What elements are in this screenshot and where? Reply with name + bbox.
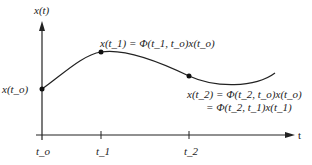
point-x-t1: [99, 50, 104, 55]
tick-label-t0: t_o: [36, 145, 50, 157]
diagram-canvas: [0, 0, 312, 165]
tick-label-t1: t_1: [96, 145, 110, 157]
point-x-t2: [187, 74, 192, 79]
point-label-x-t1: x(t_1) = Φ(t_1, t_o)x(t_o): [100, 37, 215, 49]
y-axis-label: x(t): [34, 4, 49, 16]
point-x-t0: [40, 87, 45, 92]
trajectory-curve: [42, 51, 275, 89]
point-label-x-t2-line2: = Φ(t_2, t_1)x(t_1): [206, 101, 292, 113]
x-axis-arrow-icon: [285, 132, 295, 138]
state-transition-diagram: x(t) t t_o t_1 t_2 x(t_o) x(t_1) = Φ(t_1…: [0, 0, 312, 165]
x-axis-label: t: [298, 129, 301, 141]
point-label-x-t0: x(t_o): [2, 83, 28, 95]
tick-label-t2: t_2: [184, 145, 198, 157]
y-axis-arrow-icon: [39, 21, 45, 31]
point-label-x-t2-line1: x(t_2) = Φ(t_2, t_o)x(t_o): [187, 88, 302, 100]
